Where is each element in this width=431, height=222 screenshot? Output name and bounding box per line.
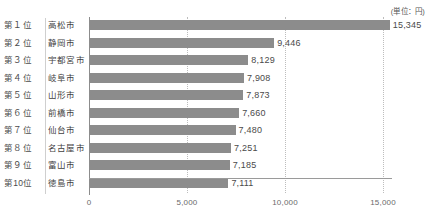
bar-value-label: 7,251 xyxy=(234,140,258,158)
value-bar xyxy=(89,73,244,83)
chart-row: 第８位名古屋市7,251 xyxy=(0,140,431,158)
city-label: 仙台市 xyxy=(48,122,86,140)
value-bar xyxy=(89,55,248,65)
chart-row: 第９位富山市7,185 xyxy=(0,157,431,175)
bar-value-label: 7,185 xyxy=(233,157,257,175)
city-label: 徳島市 xyxy=(48,175,86,193)
value-bar xyxy=(89,143,231,153)
rank-label: 第５位 xyxy=(4,87,44,105)
value-bar xyxy=(89,160,230,170)
rank-label: 第１位 xyxy=(4,17,44,35)
bar-value-label: 7,480 xyxy=(239,122,263,140)
bar-value-label: 15,345 xyxy=(393,17,422,35)
rank-label: 第９位 xyxy=(4,157,44,175)
x-tick-label: 5,000 xyxy=(176,198,197,207)
chart-row: 第６位前橋市7,660 xyxy=(0,105,431,123)
value-bar xyxy=(89,38,274,48)
city-label: 富山市 xyxy=(48,157,86,175)
chart-row: 第７位仙台市7,480 xyxy=(0,122,431,140)
chart-row: 第５位山形市7,873 xyxy=(0,87,431,105)
city-label: 山形市 xyxy=(48,87,86,105)
city-label: 高松市 xyxy=(48,17,86,35)
x-tick-label: 0 xyxy=(87,198,92,207)
bar-value-label: 7,908 xyxy=(247,70,271,88)
rank-label: 第８位 xyxy=(4,140,44,158)
city-label: 前橋市 xyxy=(48,105,86,123)
bar-value-label: 7,873 xyxy=(246,87,270,105)
bar-chart: (単位：円) 第１位高松市15,345第２位静岡市9,446第３位宇都宮市8,1… xyxy=(0,0,431,222)
rank-label: 第10位 xyxy=(4,175,44,193)
value-bar xyxy=(89,108,239,118)
value-bar xyxy=(89,178,228,188)
bar-value-label: 8,129 xyxy=(251,52,275,70)
city-label: 宇都宮市 xyxy=(48,52,86,70)
rank-label: 第６位 xyxy=(4,105,44,123)
chart-row: 第１位高松市15,345 xyxy=(0,17,431,35)
chart-row: 第４位岐阜市7,908 xyxy=(0,70,431,88)
bar-value-label: 7,660 xyxy=(242,105,266,123)
x-tick-label: 10,000 xyxy=(272,198,298,207)
rank-label: 第３位 xyxy=(4,52,44,70)
city-label: 静岡市 xyxy=(48,35,86,53)
value-axis-baseline xyxy=(89,178,392,179)
chart-row: 第２位静岡市9,446 xyxy=(0,35,431,53)
value-bar xyxy=(89,90,243,100)
value-bar xyxy=(89,125,236,135)
rank-label: 第４位 xyxy=(4,70,44,88)
rank-label: 第７位 xyxy=(4,122,44,140)
city-label: 岐阜市 xyxy=(48,70,86,88)
rank-label: 第２位 xyxy=(4,35,44,53)
chart-row: 第３位宇都宮市8,129 xyxy=(0,52,431,70)
city-label: 名古屋市 xyxy=(48,140,86,158)
value-bar xyxy=(89,20,390,30)
bar-value-label: 9,446 xyxy=(277,35,301,53)
unit-caption: (単位：円) xyxy=(391,5,425,16)
plot-area: 第１位高松市15,345第２位静岡市9,446第３位宇都宮市8,129第４位岐阜… xyxy=(0,17,431,195)
x-tick-label: 15,000 xyxy=(370,198,396,207)
